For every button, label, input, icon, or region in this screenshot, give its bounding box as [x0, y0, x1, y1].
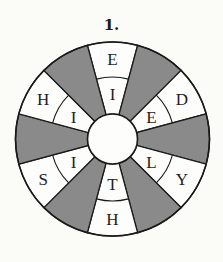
center-circle [88, 114, 138, 164]
inner-letter: T [107, 175, 118, 194]
outer-letter: H [37, 90, 49, 109]
inner-letter: I [110, 85, 116, 104]
outer-letter: E [107, 50, 117, 69]
outer-letter: H [106, 210, 118, 229]
inner-letter: L [146, 153, 156, 172]
outer-letter: Y [176, 170, 188, 189]
outer-letter: D [176, 90, 188, 109]
inner-letter: E [146, 108, 156, 127]
inner-letter: I [71, 153, 77, 172]
letter-wheel: EIDEYLHTSIHI [0, 0, 223, 262]
inner-letter: I [71, 108, 77, 127]
outer-letter: S [38, 170, 47, 189]
